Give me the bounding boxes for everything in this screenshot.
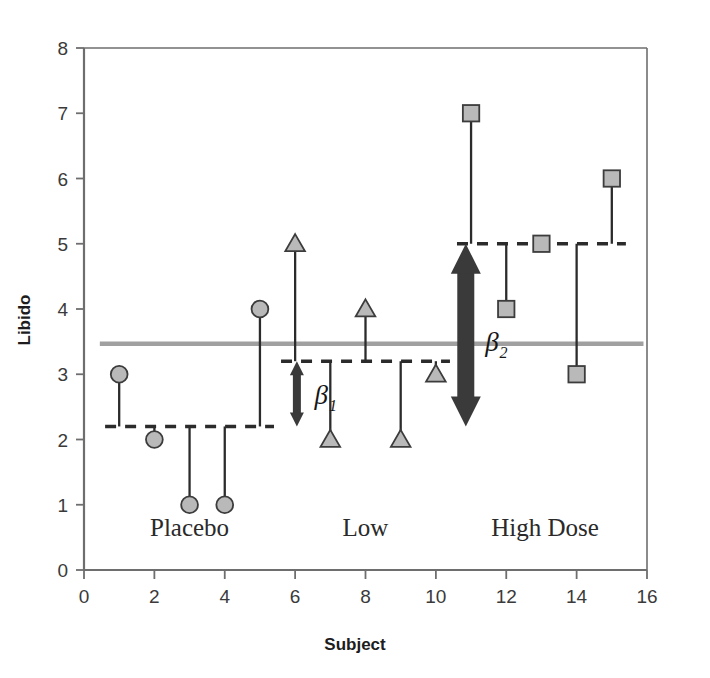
group-label: Low [343,514,389,541]
y-axis-tick-label: 0 [57,560,68,581]
data-point-square [498,301,514,317]
y-axis-tick-label: 8 [57,38,68,59]
x-axis-tick-label: 14 [566,586,588,607]
x-axis-tick-label: 8 [360,586,371,607]
beta2-label-subscript: 2 [500,344,508,361]
y-axis-title: Libido [15,295,34,346]
beta1-label-subscript: 1 [329,397,337,414]
beta2-arrow-shaft [457,265,474,405]
group-label: Placebo [150,514,229,541]
y-axis-tick-label: 6 [57,169,68,190]
y-axis-tick-label: 5 [57,234,68,255]
chart-background [0,0,710,678]
data-point-square [604,170,620,186]
x-axis-tick-label: 10 [425,586,446,607]
x-axis-tick-label: 4 [219,586,230,607]
group-labels: PlaceboLowHigh Dose [150,514,599,541]
x-axis-tick-label: 16 [636,586,657,607]
x-axis-tick-label: 2 [149,586,160,607]
group-label: High Dose [491,514,599,541]
beta1-arrow-shaft [293,371,301,416]
x-axis-title: Subject [324,635,386,654]
data-point-square [533,236,549,252]
y-axis-tick-label: 4 [57,299,68,320]
data-point-circle [216,496,233,513]
data-point-circle [111,366,128,383]
x-axis-tick-label: 6 [290,586,301,607]
y-axis-tick-label: 1 [57,495,68,516]
data-point-circle [181,496,198,513]
data-point-circle [252,301,269,318]
y-axis-tick-label: 3 [57,364,68,385]
chart-figure: 0123456780246810121416 β1β2 PlaceboLowHi… [0,0,710,678]
x-axis-tick-label: 12 [496,586,517,607]
x-axis-tick-label: 0 [79,586,90,607]
y-axis-tick-label: 7 [57,103,68,124]
data-point-circle [146,431,163,448]
libido-by-subject-scatter-chart: 0123456780246810121416 β1β2 PlaceboLowHi… [0,0,710,678]
y-axis-tick-label: 2 [57,430,68,451]
data-point-square [568,366,584,382]
data-point-square [463,105,479,121]
